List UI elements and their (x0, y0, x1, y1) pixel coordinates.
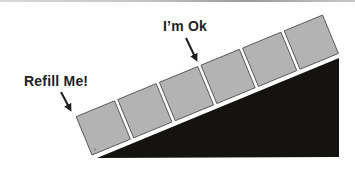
ok-label: I’m Ok (163, 18, 207, 34)
refill-arrow-icon (61, 92, 70, 109)
ok-arrow-icon (186, 38, 196, 59)
refill-label: Refill Me! (24, 73, 88, 89)
